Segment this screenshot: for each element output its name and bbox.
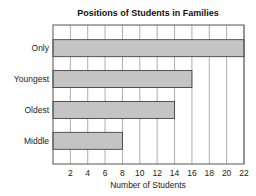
category-label: Youngest [14,74,50,84]
bar-oldest [53,101,175,118]
x-tick-label: 8 [120,168,125,178]
chart-title: Positions of Students in Families [77,8,219,18]
category-labels: OnlyYoungestOldestMiddle [14,43,50,146]
x-tick-label: 18 [205,168,215,178]
bar-chart: Positions of Students in Families OnlyYo… [0,0,256,196]
category-label: Only [32,43,50,53]
x-axis-label: Number of Students [110,180,186,190]
x-tick-label: 14 [170,168,180,178]
x-tick-label: 6 [103,168,108,178]
x-tick-label: 4 [85,168,90,178]
x-tick-labels: 246810121416182022 [68,168,249,178]
bar-middle [53,132,122,149]
x-tick-label: 2 [68,168,73,178]
bar-youngest [53,71,192,88]
bar-only [53,40,244,57]
x-tick-label: 10 [135,168,145,178]
x-tick-label: 16 [187,168,197,178]
x-tick-label: 22 [239,168,249,178]
x-tick-label: 12 [152,168,162,178]
x-tick-label: 20 [222,168,232,178]
bars [53,40,244,150]
category-label: Middle [24,136,49,146]
category-label: Oldest [24,105,49,115]
